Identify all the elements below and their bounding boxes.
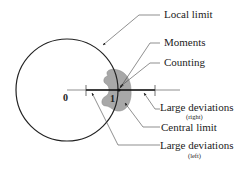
label-moments: Moments: [164, 37, 206, 48]
label-central-limit: Central limit: [161, 122, 217, 133]
label-local-limit: Local limit: [164, 9, 213, 20]
leader-large-dev-right: [144, 93, 160, 109]
origin-label: 0: [63, 93, 68, 103]
leader-central-limit: [125, 103, 160, 127]
label-large-dev-left: Large deviations: [160, 140, 233, 151]
leader-local-limit: [103, 15, 160, 45]
label-large-dev-right: Large deviations: [160, 102, 233, 113]
label-large-dev-right-sub: (right): [186, 114, 203, 121]
label-large-dev-left-sub: (left): [188, 153, 201, 160]
label-counting: Counting: [164, 57, 205, 68]
point-one: [117, 88, 120, 91]
one-label: 1: [110, 94, 115, 104]
